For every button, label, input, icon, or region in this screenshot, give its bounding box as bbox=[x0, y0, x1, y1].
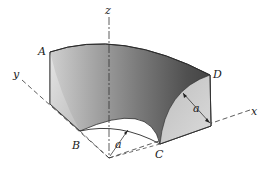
label-y-axis: y bbox=[12, 68, 20, 81]
label-point-d: D bbox=[212, 68, 222, 81]
label-point-b: B bbox=[71, 139, 80, 152]
diagram-canvas: z y x A B C D a a bbox=[0, 0, 273, 171]
label-point-a: A bbox=[37, 45, 46, 58]
label-x-axis: x bbox=[251, 105, 258, 118]
label-radius-a: a bbox=[115, 138, 122, 151]
label-thickness-a: a bbox=[193, 102, 200, 115]
label-z-axis: z bbox=[104, 4, 111, 17]
label-point-c: C bbox=[155, 148, 164, 161]
